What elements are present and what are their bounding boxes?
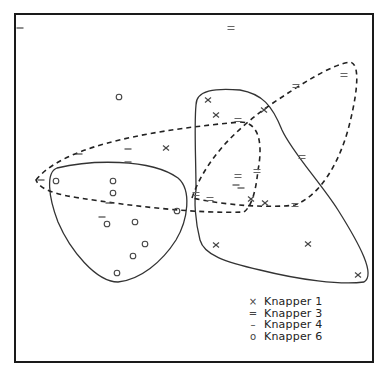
cross-marker-icon <box>213 243 219 248</box>
hull-knapper-4 <box>36 122 260 212</box>
cross-marker-icon <box>305 242 311 247</box>
legend-label: Knapper 6 <box>264 331 322 343</box>
equals-marker-icon <box>228 27 235 30</box>
circle-marker-icon <box>53 178 59 184</box>
circle-marker-icon <box>142 241 148 247</box>
cross-marker-icon <box>262 201 268 206</box>
hull-knapper-3 <box>192 62 357 206</box>
hull-knapper-1 <box>195 89 368 283</box>
circle-marker-icon <box>110 190 116 196</box>
legend-item-knapper-6: o Knapper 6 <box>246 331 322 343</box>
cross-marker-icon <box>261 108 267 113</box>
cross-marker-icon: × <box>246 296 260 308</box>
equals-marker-icon <box>235 175 242 178</box>
circle-marker-icon <box>132 219 138 225</box>
cross-marker-icon <box>213 113 219 118</box>
circle-marker-icon <box>114 270 120 276</box>
circle-marker-icon <box>174 208 180 214</box>
circle-marker-icon <box>110 178 116 184</box>
legend-label: Knapper 1 <box>264 296 322 308</box>
cross-marker-icon <box>355 273 361 278</box>
circle-marker-icon <box>130 253 136 259</box>
circle-marker-icon <box>116 94 122 100</box>
equals-marker-icon <box>254 170 261 173</box>
hull-knapper-6 <box>50 162 187 282</box>
points-knapper-3 <box>193 27 348 207</box>
points-knapper-4 <box>17 28 245 217</box>
legend-label: Knapper 4 <box>264 319 322 331</box>
circle-marker-icon: o <box>246 331 260 343</box>
legend-item-knapper-1: × Knapper 1 <box>246 296 322 308</box>
equals-marker-icon <box>207 198 214 201</box>
scatter-plot <box>0 0 384 376</box>
legend: × Knapper 1 = Knapper 3 – Knapper 4 o Kn… <box>246 296 322 342</box>
equals-marker-icon <box>341 74 348 77</box>
legend-item-knapper-4: – Knapper 4 <box>246 319 322 331</box>
points-knapper-1 <box>163 98 361 278</box>
circle-marker-icon <box>104 221 110 227</box>
cross-marker-icon <box>205 98 211 103</box>
cross-marker-icon <box>163 146 169 151</box>
equals-marker-icon <box>235 119 242 122</box>
equals-marker-icon: = <box>246 308 260 320</box>
dash-marker-icon: – <box>246 319 260 331</box>
